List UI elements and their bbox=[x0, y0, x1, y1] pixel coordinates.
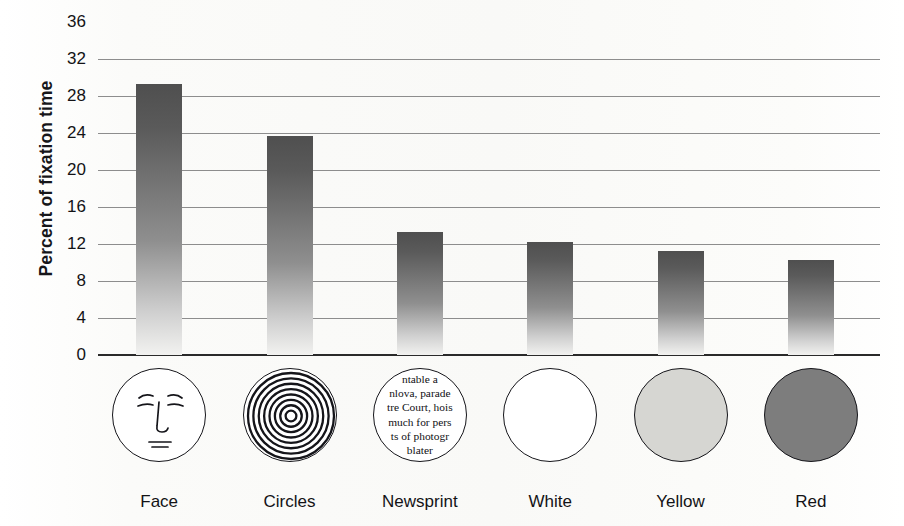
bar-chart-figure: Percent of fixation time 048121620242832… bbox=[0, 0, 904, 526]
red-circle-icon bbox=[764, 368, 858, 462]
newsprint-line: ts of photogr bbox=[373, 429, 467, 443]
gridline bbox=[98, 170, 880, 171]
bar-yellow bbox=[658, 251, 704, 355]
icon-cell bbox=[633, 366, 729, 488]
bar-white bbox=[527, 242, 573, 355]
newsprint-icon: ntable anlova, paradetre Court, hoismuch… bbox=[373, 368, 467, 462]
icon-cell bbox=[242, 366, 338, 488]
category-label-white: White bbox=[475, 492, 625, 512]
bar-newsprint bbox=[397, 232, 443, 355]
y-tick-label: 36 bbox=[67, 12, 86, 32]
y-tick-label: 0 bbox=[77, 345, 86, 365]
plot-area: 04812162024283236 bbox=[98, 22, 880, 355]
y-tick-label: 24 bbox=[67, 123, 86, 143]
bar-face bbox=[136, 84, 182, 355]
newsprint-text: ntable anlova, paradetre Court, hoismuch… bbox=[373, 372, 467, 457]
yellow-circle-icon bbox=[634, 368, 728, 462]
newsprint-line: blater bbox=[373, 443, 467, 457]
bar-red bbox=[788, 260, 834, 355]
gridline bbox=[98, 133, 880, 134]
icon-cell bbox=[763, 366, 859, 488]
white-circle-icon bbox=[503, 368, 597, 462]
newsprint-line: ntable a bbox=[373, 372, 467, 386]
y-tick-label: 8 bbox=[77, 271, 86, 291]
y-tick-label: 4 bbox=[77, 308, 86, 328]
gridline bbox=[98, 318, 880, 319]
y-tick-label: 32 bbox=[67, 49, 86, 69]
gridline bbox=[98, 244, 880, 245]
category-label-newsprint: Newsprint bbox=[345, 492, 495, 512]
gridline bbox=[98, 22, 880, 23]
category-label-face: Face bbox=[84, 492, 234, 512]
y-tick-label: 16 bbox=[67, 197, 86, 217]
category-label-yellow: Yellow bbox=[606, 492, 756, 512]
icon-cell bbox=[111, 366, 207, 488]
newsprint-line: nlova, parade bbox=[373, 387, 467, 401]
icon-cell bbox=[502, 366, 598, 488]
icon-row: ntable anlova, paradetre Court, hoismuch… bbox=[98, 366, 880, 488]
category-label-circles: Circles bbox=[215, 492, 365, 512]
y-tick-label: 20 bbox=[67, 160, 86, 180]
concentric-circles-icon bbox=[243, 368, 337, 462]
gridline bbox=[98, 281, 880, 282]
bar-circles bbox=[267, 136, 313, 355]
gridline bbox=[98, 207, 880, 208]
face-icon bbox=[112, 368, 206, 462]
y-axis-title: Percent of fixation time bbox=[36, 49, 57, 309]
icon-cell: ntable anlova, paradetre Court, hoismuch… bbox=[372, 366, 468, 488]
newsprint-line: tre Court, hois bbox=[373, 401, 467, 415]
y-tick-label: 12 bbox=[67, 234, 86, 254]
category-label-red: Red bbox=[736, 492, 886, 512]
gridline bbox=[98, 59, 880, 60]
gridline bbox=[98, 96, 880, 97]
category-label-row: FaceCirclesNewsprintWhiteYellowRed bbox=[98, 492, 880, 522]
y-tick-label: 28 bbox=[67, 86, 86, 106]
newsprint-line: much for pers bbox=[373, 415, 467, 429]
axis-baseline bbox=[98, 354, 880, 356]
